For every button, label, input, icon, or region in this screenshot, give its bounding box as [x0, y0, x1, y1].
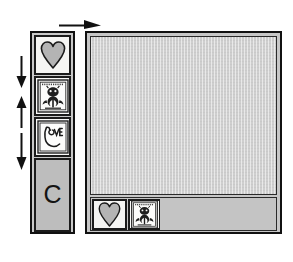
- figure-stage: C: [0, 0, 293, 262]
- canvas-tray[interactable]: [90, 197, 277, 231]
- thistle-crest-icon: [36, 78, 69, 114]
- canvas-panel[interactable]: [85, 31, 282, 234]
- palette-slot-love-monogram[interactable]: [34, 117, 71, 157]
- thistle-crest-icon: [130, 201, 159, 228]
- tray-empty-area[interactable]: [160, 199, 276, 230]
- stamp-palette[interactable]: C: [30, 31, 75, 234]
- tray-slot-heart[interactable]: [92, 199, 127, 230]
- love-monogram-icon: [36, 119, 69, 155]
- arrow-right-icon: [58, 16, 102, 30]
- heart-icon: [94, 201, 125, 228]
- canvas-work-area[interactable]: [90, 36, 277, 195]
- c-block[interactable]: C: [34, 158, 71, 232]
- c-block-label: C: [43, 182, 61, 207]
- arrow-up-1-icon: [15, 95, 29, 128]
- arrow-down-1-icon: [15, 56, 29, 89]
- heart-icon: [36, 37, 69, 73]
- tray-slot-thistle[interactable]: [128, 199, 161, 230]
- palette-slot-heart[interactable]: [34, 35, 71, 75]
- palette-slot-thistle[interactable]: [34, 76, 71, 116]
- arrow-down-2-icon: [15, 133, 29, 171]
